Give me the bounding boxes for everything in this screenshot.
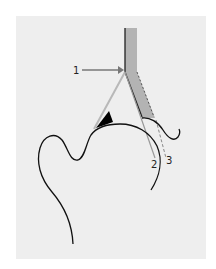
femoral-head-outline [39, 124, 161, 244]
label-1: 1 [73, 65, 79, 76]
label-2: 2 [151, 159, 157, 170]
grey-wedge [125, 28, 155, 118]
line-3 [156, 120, 166, 158]
arrow-head-icon [118, 66, 124, 74]
femoral-head-diagram: 1 2 3 [0, 0, 216, 269]
label-3: 3 [166, 155, 172, 166]
